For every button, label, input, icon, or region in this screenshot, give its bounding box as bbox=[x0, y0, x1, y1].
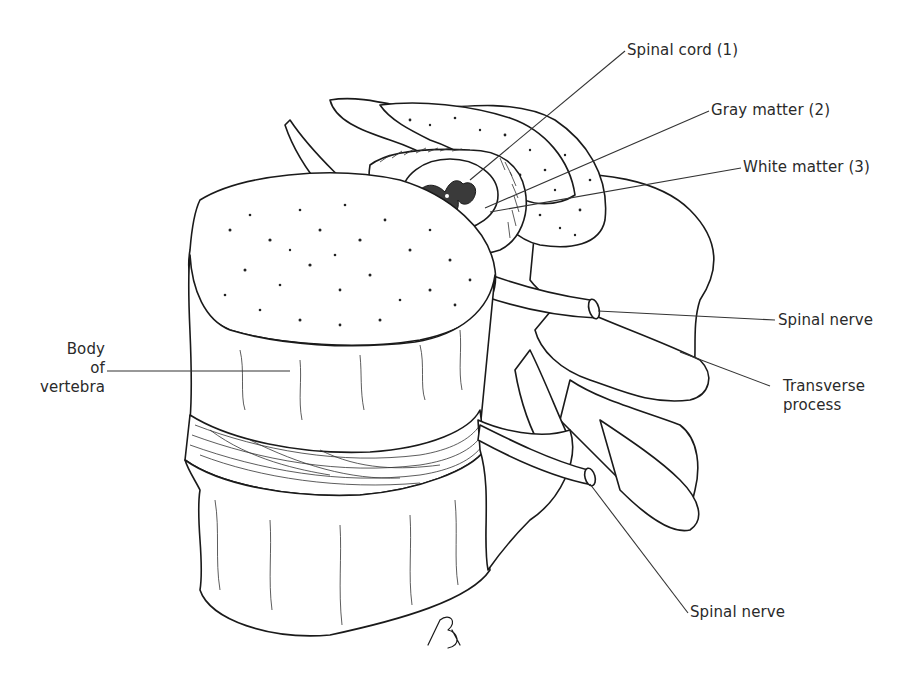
label-body-of-vertebra: Body of vertebra bbox=[25, 340, 105, 397]
label-spinal-cord: Spinal cord (1) bbox=[627, 41, 738, 60]
label-body-line3: vertebra bbox=[25, 378, 105, 397]
label-spinal-nerve-lower: Spinal nerve bbox=[690, 603, 785, 622]
label-transverse-process: Transverse process bbox=[783, 377, 865, 415]
label-gray-matter: Gray matter (2) bbox=[711, 101, 830, 120]
label-spinal-nerve-upper: Spinal nerve bbox=[778, 311, 873, 330]
label-body-line1: Body bbox=[25, 340, 105, 359]
vertebral-body bbox=[189, 173, 496, 458]
label-transverse-line2: process bbox=[783, 396, 865, 415]
label-white-matter: White matter (3) bbox=[743, 158, 870, 177]
label-transverse-line1: Transverse bbox=[783, 377, 865, 396]
label-body-line2: of bbox=[25, 359, 105, 378]
artist-signature bbox=[428, 617, 460, 648]
